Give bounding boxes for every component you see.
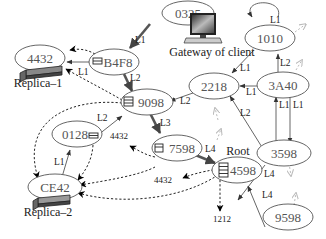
svg-text:3A40: 3A40: [269, 78, 298, 93]
svg-text:L3: L3: [160, 118, 171, 128]
svg-text:L1: L1: [279, 100, 290, 110]
table-icon-9098: [124, 97, 133, 106]
svg-text:0128: 0128: [62, 127, 88, 142]
svg-text:L1: L1: [135, 35, 146, 45]
svg-text:CE42: CE42: [40, 180, 70, 195]
svg-text:2218: 2218: [201, 79, 227, 94]
svg-text:L2: L2: [130, 73, 141, 83]
svg-text:L2: L2: [180, 96, 191, 106]
svg-text:L4: L4: [264, 169, 275, 179]
overlay-routing-diagram: 0325 1010 4432 B4F8 2218 3A40 9098 3598 …: [0, 0, 326, 239]
table-icon-0128: [89, 133, 98, 138]
table-icon-b4f8: [93, 58, 102, 64]
svg-text:L4: L4: [262, 190, 273, 200]
svg-text:L1: L1: [240, 63, 251, 73]
svg-text:B4F8: B4F8: [104, 55, 133, 70]
node-9598[interactable]: 9598: [263, 204, 313, 230]
svg-text:L2: L2: [97, 113, 108, 123]
svg-text:L2: L2: [240, 108, 251, 118]
svg-text:7598: 7598: [169, 141, 195, 156]
replica-1-caption: Replica–1: [14, 76, 63, 90]
svg-text:L1: L1: [270, 15, 281, 25]
svg-text:L1: L1: [246, 87, 257, 97]
table-icon-7598: [155, 144, 163, 152]
node-3598[interactable]: 3598: [257, 140, 311, 166]
svg-text:L1: L1: [293, 100, 304, 110]
svg-text:3598: 3598: [271, 146, 297, 161]
node-2218[interactable]: 2218: [189, 73, 239, 99]
svg-text:L1: L1: [54, 157, 65, 167]
svg-text:L2: L2: [280, 58, 291, 68]
svg-text:1010: 1010: [257, 31, 283, 46]
svg-text:9598: 9598: [275, 210, 301, 225]
table-icon-4598: [219, 163, 228, 177]
svg-text:L1: L1: [78, 67, 89, 77]
svg-text:4432: 4432: [154, 175, 172, 185]
root-caption: Root: [226, 144, 250, 158]
svg-text:4598: 4598: [230, 163, 256, 178]
svg-text:9098: 9098: [138, 95, 164, 110]
node-3A40[interactable]: 3A40: [257, 72, 309, 98]
svg-text:4432: 4432: [110, 131, 128, 141]
svg-text:1212: 1212: [213, 214, 231, 224]
gateway-caption: Gateway of client: [169, 45, 255, 59]
svg-text:4432: 4432: [27, 51, 53, 66]
svg-text:L4: L4: [205, 144, 216, 154]
replica-2-caption: Replica–2: [24, 205, 73, 219]
